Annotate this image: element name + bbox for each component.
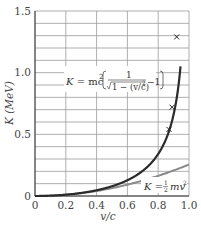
- x-tick-label: 0.2: [57, 199, 74, 211]
- x-axis-label: v/c: [100, 210, 115, 222]
- grid: [35, 11, 189, 196]
- svg-text:1: 1: [164, 179, 168, 186]
- svg-text:2: 2: [183, 179, 187, 186]
- classical-formula-label: K = 1 2 mv 2: [141, 177, 187, 193]
- y-tick-label: 1.5: [14, 5, 31, 17]
- svg-text:K = mc: K = mc: [65, 76, 104, 87]
- y-axis-label: K (MeV): [3, 81, 15, 126]
- data-point-marker: [170, 105, 175, 110]
- svg-text:1: 1: [126, 70, 132, 80]
- x-tick-label: 0: [32, 199, 39, 211]
- svg-text:−1: −1: [147, 77, 160, 87]
- relativistic-formula-label: K = mc 2 1 1 − (v/c) 2 −1: [64, 66, 163, 92]
- x-tick-label: 0.6: [119, 199, 136, 211]
- x-tick-label: 1.0: [181, 199, 198, 211]
- y-tick-label: 0: [24, 190, 31, 202]
- svg-text:K =: K =: [143, 181, 163, 192]
- svg-text:2: 2: [164, 186, 168, 193]
- data-point-marker: [174, 34, 179, 39]
- svg-text:2: 2: [142, 79, 146, 86]
- x-tick-label: 0.8: [150, 199, 167, 211]
- y-tick-label: 0.5: [14, 128, 31, 140]
- curves: [35, 34, 189, 196]
- kinetic-energy-chart: 00.20.40.60.81.000.51.01.5 K = mc 2 1 1 …: [0, 0, 201, 225]
- y-tick-label: 1.0: [14, 66, 31, 78]
